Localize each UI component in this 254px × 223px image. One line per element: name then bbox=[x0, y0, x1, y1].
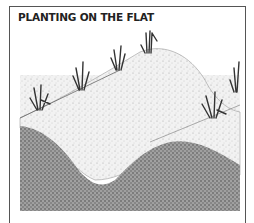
planting-illustration bbox=[0, 0, 254, 223]
